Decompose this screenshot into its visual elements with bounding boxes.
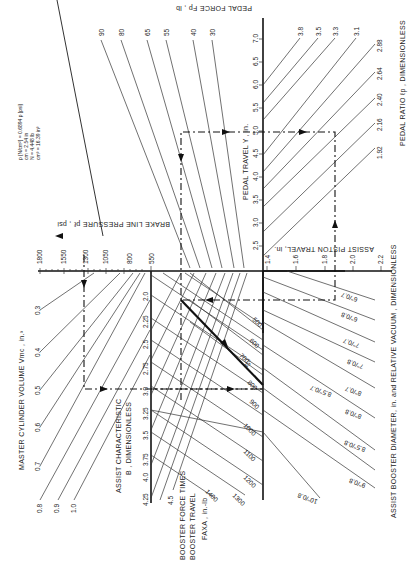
arrow-right-bottom-2 [227, 386, 235, 392]
svg-text:2.5: 2.5 [142, 340, 149, 349]
booster-diameter-lines [263, 271, 375, 498]
svg-text:7''/0.8: 7''/0.8 [346, 358, 365, 371]
booster-title-3: FAXA , in.-lb [201, 498, 208, 540]
svg-text:2.75: 2.75 [142, 362, 149, 375]
arrow-up-right-vertical [332, 220, 338, 228]
pedal-ratio-3-5: 3.5 [315, 27, 322, 36]
brake-pressure-ticks [40, 266, 151, 274]
pedal-travel-3-5: 3.5 [252, 195, 259, 204]
svg-text:2.25: 2.25 [142, 315, 149, 328]
pedal-ratio-2-88: 2.88 [376, 39, 383, 52]
pressure-1050: 1050 [102, 249, 109, 264]
arrow-down-pressure [81, 280, 87, 288]
svg-text:800: 800 [246, 379, 259, 392]
svg-text:900: 900 [248, 398, 261, 411]
piston-travel-2-0: 2.0 [349, 255, 356, 264]
svg-text:3.0: 3.0 [142, 387, 149, 396]
pedal-travel-5-0: 5.0 [252, 126, 259, 135]
piston-travel-1-4: 1.4 [264, 255, 271, 264]
pedal-force-90: 90 [98, 28, 105, 36]
svg-text:1100: 1100 [242, 448, 257, 463]
svg-text:3.5: 3.5 [142, 431, 149, 440]
pedal-force-title: PEDAL FORCE Fp , lb [176, 4, 252, 12]
booster-title-2: BOOSTER TRAVEL [189, 493, 196, 560]
pedal-travel-4-0: 4.0 [252, 172, 259, 181]
pedal-force-40: 40 [190, 28, 197, 36]
pedal-travel-6-5: 6.5 [252, 57, 259, 66]
svg-text:4.5: 4.5 [167, 496, 174, 505]
pedal-force-80: 80 [118, 28, 125, 36]
arrow-right-pedal [299, 129, 307, 135]
booster-diameter-labels: 6''/0.7 6''/0.8 7''/0.7 7''/0.8 8''/0.7 … [296, 291, 366, 506]
pressure-1300: 1300 [82, 249, 89, 264]
assist-characteristic-title-1: ASSIST CHARACTERISTIC [115, 399, 122, 493]
pressure-1800: 1800 [36, 249, 43, 264]
svg-text:1000: 1000 [242, 422, 257, 437]
pedal-ratio-2-64: 2.64 [376, 67, 383, 80]
booster-diameter-title: ASSIST BOOSTER DIAMETER, in. and RELATIV… [390, 244, 397, 518]
svg-text:1300: 1300 [231, 492, 246, 507]
brake-line-pressure-title: BRAKE LINE PRESSURE pℓ , psi [57, 220, 170, 228]
pedal-force-30: 30 [209, 28, 216, 36]
pedal-ratio-1-92: 1.92 [376, 146, 383, 159]
svg-text:8.5''/0.7: 8.5''/0.7 [309, 384, 333, 398]
master-cylinder-lines [40, 273, 150, 500]
mc-volume-0-7: 0.7 [34, 462, 41, 471]
piston-travel-2-2: 2.2 [377, 255, 384, 264]
svg-text:9''/0.8: 9''/0.8 [348, 477, 367, 490]
pedal-ratio-3-1: 3.1 [353, 27, 360, 36]
svg-text:6''/0.8: 6''/0.8 [340, 311, 359, 324]
svg-text:1200: 1200 [242, 474, 257, 489]
pedal-travel-7-0: 7.0 [252, 34, 259, 43]
booster-title-1: BOOSTER FORCE TIMES [179, 470, 186, 560]
svg-text:4.0: 4.0 [142, 473, 149, 482]
svg-text:3.25: 3.25 [142, 407, 149, 420]
svg-text:2.0: 2.0 [142, 292, 149, 301]
pedal-ratio-2-16: 2.16 [376, 118, 383, 131]
piston-travel-1-6: 1.6 [292, 255, 299, 264]
svg-text:8''/0.8: 8''/0.8 [344, 408, 363, 421]
pedal-travel-5-5: 5.5 [252, 103, 259, 112]
pedal-force-lines [101, 40, 244, 268]
pressure-direction-arrow [57, 0, 103, 236]
mc-volume-1-0: 1.0 [70, 504, 77, 513]
center-crosshatch [151, 273, 263, 500]
mc-volume-0-3: 0.3 [34, 306, 41, 315]
arrow-right-bottom [100, 386, 108, 392]
pedal-force-65: 65 [144, 28, 151, 36]
mc-volume-0-8: 0.8 [36, 504, 43, 513]
pressure-800: 800 [126, 253, 133, 264]
units-note-line-4: cm³ = 16.39 in³ [35, 126, 41, 160]
mc-volume-0-6: 0.6 [34, 423, 41, 432]
units-note: p [N/cm²] = 0.6894 p [psi] cm = 2.54 in … [17, 103, 41, 160]
pressure-550: 550 [148, 253, 155, 264]
assist-piston-travel-title: ASSIST PISTON TRAVEL, in. [274, 246, 374, 253]
svg-text:8''/0.7: 8''/0.7 [344, 385, 363, 398]
booster-lines [151, 273, 263, 432]
svg-text:6''/0.7: 6''/0.7 [340, 291, 359, 304]
pedal-ratio-2-40: 2.40 [376, 93, 383, 106]
master-cylinder-volume-title: MASTER CYLINDER VOLUME Vmc , in.³ [18, 330, 25, 470]
pedal-travel-4-5: 4.5 [252, 149, 259, 158]
svg-text:10''/0.8: 10''/0.8 [296, 492, 318, 506]
pedal-travel-3-0: 3.0 [252, 218, 259, 227]
pedal-ratio-3-3: 3.3 [332, 27, 339, 36]
pedal-ratio-title: PEDAL RATIO ℓp , DIMENSIONLESS [399, 20, 407, 146]
arrow-down-left-vertical [178, 154, 184, 162]
svg-text:4.25: 4.25 [142, 493, 149, 506]
mc-volume-0-9: 0.9 [53, 504, 60, 513]
pressure-1550: 1550 [60, 249, 67, 264]
pedal-travel-6-0: 6.0 [252, 80, 259, 89]
svg-text:3.75: 3.75 [142, 453, 149, 466]
brake-design-nomogram: p [N/cm²] = 0.6894 p [psi] cm = 2.54 in … [0, 0, 418, 567]
pedal-ratio-lines [263, 38, 375, 256]
pedal-force-55: 55 [163, 28, 170, 36]
pressure-arrowhead [55, 233, 63, 239]
pedal-travel-title: PEDAL TRAVEL Y , in. [242, 123, 249, 200]
mc-volume-0-5: 0.5 [34, 386, 41, 395]
brake-pressure-tick-labels: 1800 1550 1300 1050 800 550 [36, 249, 155, 264]
mc-volume-0-4: 0.4 [34, 348, 41, 357]
assist-characteristic-title-2: B , DIMENSIONLESS [125, 402, 132, 475]
piston-travel-1-8: 1.8 [321, 255, 328, 264]
pedal-travel-2-5: 2.5 [252, 241, 259, 250]
